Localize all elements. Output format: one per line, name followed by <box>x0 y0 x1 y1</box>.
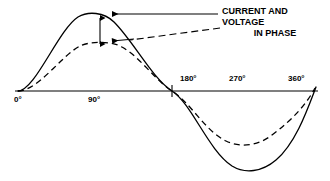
voltage-waveform-dashed <box>18 42 315 145</box>
axis-label-90deg: 90° <box>88 95 100 104</box>
phase-annotation-line2: IN PHASE <box>222 28 328 39</box>
axis-label-270deg: 270° <box>229 74 246 83</box>
axis-label-0deg: 0° <box>14 95 22 104</box>
axis-label-180deg: 180° <box>180 74 197 83</box>
axis-label-360deg: 360° <box>288 74 305 83</box>
dashed-curve-leader <box>130 28 220 40</box>
waveform-diagram: CURRENT AND VOLTAGE IN PHASE 0° 90° 180°… <box>0 0 330 181</box>
phase-annotation-label: CURRENT AND VOLTAGE IN PHASE <box>222 6 328 39</box>
phase-annotation-line1: CURRENT AND VOLTAGE <box>222 6 328 28</box>
